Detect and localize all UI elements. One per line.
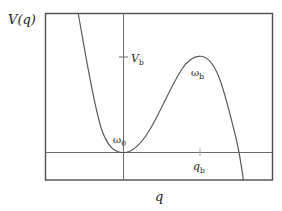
well-frequency-label: ω0	[113, 134, 126, 148]
plot-frame	[46, 14, 273, 181]
barrier-position-subscript: b	[200, 166, 205, 175]
x-axis-label: q	[155, 189, 163, 204]
barrier-frequency-label: ωb	[191, 67, 204, 81]
barrier-height-label: Vb	[131, 52, 144, 67]
barrier-position-symbol: q	[193, 160, 200, 173]
barrier-frequency-symbol: ω	[191, 67, 199, 78]
potential-curve	[78, 14, 243, 181]
barrier-position-label: qb	[193, 160, 205, 175]
barrier-frequency-subscript: b	[199, 72, 204, 81]
well-frequency-symbol: ω	[113, 134, 121, 145]
barrier-height-subscript: b	[139, 58, 144, 67]
well-frequency-subscript: 0	[121, 139, 126, 148]
potential-plot-figure: V(q) V(q) q q Vb ω0 ωb qb	[0, 0, 282, 211]
y-axis-label: V(q)	[8, 12, 36, 27]
plot-svg: V(q) V(q) q q Vb ω0 ωb qb	[0, 0, 282, 211]
